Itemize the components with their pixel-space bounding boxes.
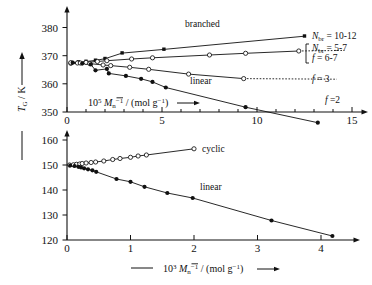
- bottom-xtick-4: 4: [318, 242, 324, 254]
- series-markers-cyclic: [67, 147, 196, 167]
- bottom-ytick-140: 140: [42, 184, 59, 196]
- top-xtick-0: 0: [64, 114, 70, 126]
- top-y-ticks: 350 360 370 380: [42, 22, 68, 119]
- top-x-axis-label-text: 105 Mn−1 / (mol g−1): [88, 97, 168, 111]
- top-x-axis-label: 105 Mn−1 / (mol g−1): [88, 97, 200, 111]
- top-x-ticks: 0 5 10 15: [64, 107, 358, 126]
- figure-container: TG / K 350 360 370 380: [0, 0, 372, 285]
- top-right-labels: Nbr = 10-12 Nbr = 5-7 f = 6-7 f = 3 f =2: [306, 31, 357, 105]
- bottom-xtick-1: 1: [128, 242, 134, 254]
- top-y-axis-arrow: [64, 6, 69, 13]
- label-f-6-7: f = 6-7: [312, 53, 338, 63]
- chart-svg: TG / K 350 360 370 380: [0, 0, 372, 285]
- top-ytick-380: 380: [42, 22, 59, 34]
- y-axis-caption-unit: / K: [16, 86, 27, 102]
- top-ytick-360: 360: [42, 78, 59, 90]
- label-nbr-10-12: Nbr = 10-12: [311, 31, 357, 43]
- bottom-ytick-130: 130: [42, 209, 59, 221]
- bottom-ytick-120: 120: [42, 234, 59, 246]
- bottom-x-axis-arrow: [354, 237, 361, 242]
- annotation-branched: branched: [185, 19, 220, 29]
- top-x-axis-arrow: [362, 109, 369, 114]
- top-panel: 350 360 370 380: [42, 6, 369, 126]
- bottom-ytick-150: 150: [42, 159, 59, 171]
- bottom-x-ticks: 0 1 2 3 4: [64, 235, 324, 254]
- y-axis-caption: TG / K: [16, 52, 29, 160]
- label-f-2: f =2: [325, 95, 340, 105]
- bottom-xtick-3: 3: [255, 242, 261, 254]
- label-group-bracket: [306, 44, 309, 63]
- top-ytick-370: 370: [42, 50, 59, 62]
- series-line-linear-bottom: [70, 166, 332, 237]
- bottom-ytick-160: 160: [42, 134, 59, 146]
- bottom-xtick-0: 0: [64, 242, 70, 254]
- top-xtick-15: 15: [347, 114, 359, 126]
- top-xtick-10: 10: [252, 114, 264, 126]
- bottom-x-axis-label: 103 Mn−1 / (mol g−1): [131, 263, 280, 277]
- annotation-cyclic: cyclic: [202, 144, 225, 154]
- annotation-linear-bottom: linear: [200, 182, 222, 192]
- bottom-panel: 120 130 140 150 160 0 1 2 3 4: [42, 130, 361, 276]
- bottom-y-ticks: 120 130 140 150 160: [42, 134, 68, 246]
- bottom-y-axis-arrow: [64, 130, 69, 137]
- bottom-x-axis-label-text: 103 Mn−1 / (mol g−1): [163, 263, 243, 277]
- bottom-xtick-2: 2: [191, 242, 197, 254]
- y-axis-caption-text: TG / K: [16, 86, 29, 112]
- top-xtick-5: 5: [159, 114, 165, 126]
- label-f-3: f = 3: [312, 74, 330, 84]
- top-ytick-350: 350: [42, 106, 59, 118]
- annotation-linear-top: linear: [190, 76, 212, 86]
